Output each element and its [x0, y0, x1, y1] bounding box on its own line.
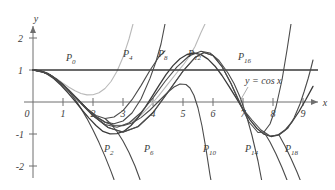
y-axis-tick-labels: 2 1 -1 -2 — [16, 33, 24, 172]
axis-titles: x y — [33, 13, 328, 108]
curve-label-P0: P0 — [65, 52, 76, 66]
y-tick-label-neg1: -1 — [16, 129, 24, 140]
curve-cos — [33, 53, 313, 137]
x-tick-label-5: 5 — [181, 108, 186, 119]
y-axis-arrow — [30, 26, 36, 33]
x-axis-label: x — [322, 97, 328, 108]
curve-label-P10: P10 — [202, 143, 217, 157]
curve-label-P18: P18 — [284, 143, 299, 157]
curve-label-P4: P4 — [122, 48, 133, 62]
y-tick-label-2: 2 — [18, 33, 23, 44]
x-tick-label-3: 3 — [120, 108, 126, 119]
curve-P8 — [33, 24, 165, 124]
x-tick-label-6: 6 — [211, 108, 216, 119]
chart-curves — [33, 24, 318, 186]
curve-label-P12: P12 — [187, 48, 202, 62]
curve-label-P6: P6 — [143, 143, 154, 157]
curve-label-P16: P16 — [237, 51, 252, 65]
curve-P14 — [33, 51, 262, 182]
curve-P10 — [33, 70, 212, 186]
curve-P2 — [33, 70, 114, 180]
curve-P4 — [33, 24, 133, 95]
chart-axes — [24, 26, 318, 178]
y-tick-label-neg2: -2 — [16, 161, 24, 172]
x-tick-label-0: 0 — [25, 108, 30, 119]
cos-leader-line — [240, 87, 248, 101]
taylor-polynomial-chart: 0 1 2 3 4 5 6 7 8 9 2 1 -1 -2 x y — [0, 0, 335, 190]
x-axis-arrow — [311, 99, 318, 105]
curve-label-P14: P14 — [244, 143, 259, 157]
cos-equation-label: y = cos x — [244, 75, 282, 86]
curve-label-P8: P8 — [157, 48, 168, 62]
y-tick-label-1: 1 — [18, 65, 23, 76]
x-axis-tick-labels: 0 1 2 3 4 5 6 7 8 9 — [25, 108, 306, 119]
x-tick-label-1: 1 — [61, 108, 66, 119]
curve-P12 — [33, 24, 205, 125]
cos-annotation: y = cos x — [240, 75, 282, 101]
x-tick-label-9: 9 — [301, 108, 306, 119]
y-axis-label: y — [33, 13, 39, 24]
curve-P16-descent — [264, 132, 287, 180]
